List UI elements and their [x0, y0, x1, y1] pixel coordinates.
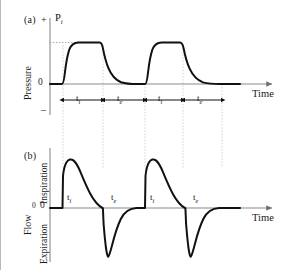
panel-b-y-axis-upper-label: Inspiration — [39, 163, 49, 204]
interval-subscript: e — [196, 197, 199, 204]
panel-a-minus-sign: – — [41, 104, 46, 115]
peak-pressure-subscript: i — [61, 18, 63, 26]
pressure-waveform-curve — [50, 43, 240, 85]
interval-subscript: i — [161, 98, 163, 105]
panel-b-zero-label: 0 — [40, 200, 45, 210]
interval-subscript: i — [153, 197, 155, 204]
interval-subscript: e — [200, 98, 203, 105]
interval-subscript: i — [79, 98, 81, 105]
panel-b-y-axis-lower-label: Expiration — [39, 224, 49, 264]
panel-a-plus-sign: + — [41, 14, 47, 25]
panel-b-interval-ti-2: ti — [150, 192, 154, 204]
connector-gridlines — [63, 45, 222, 168]
panel-b-graphics — [50, 148, 272, 262]
panel-b-zero-label-inner: 0 — [32, 201, 36, 210]
panel-a-x-axis-label: Time — [252, 88, 274, 99]
interval-subscript: e — [114, 197, 117, 204]
panel-a-interval-te-1: te — [117, 93, 122, 105]
panel-b-y-axis-label: Flow — [22, 214, 33, 235]
panel-a-y-axis-label: Pressure — [22, 66, 33, 100]
panel-a-interval-te-2: te — [197, 93, 202, 105]
panel-a-interval-ti-2: ti — [158, 93, 162, 105]
interval-subscript: e — [120, 98, 123, 105]
panel-a-interval-ti-1: ti — [76, 93, 80, 105]
ventilator-waveform-figure: (a) + – Pi Pressure 0 Time ti te ti te (… — [0, 0, 301, 270]
panel-b-interval-te-2: te — [193, 192, 198, 204]
interval-subscript: i — [70, 197, 72, 204]
panel-b-tag: (b) — [24, 150, 36, 161]
panel-a-tag: (a) — [24, 14, 36, 25]
peak-pressure-label: Pi — [55, 12, 63, 26]
panel-b-interval-te-1: te — [111, 192, 116, 204]
panel-a-zero-label: 0 — [38, 77, 43, 87]
panel-b-interval-ti-1: ti — [67, 192, 71, 204]
panel-b-x-axis-label: Time — [252, 212, 274, 223]
